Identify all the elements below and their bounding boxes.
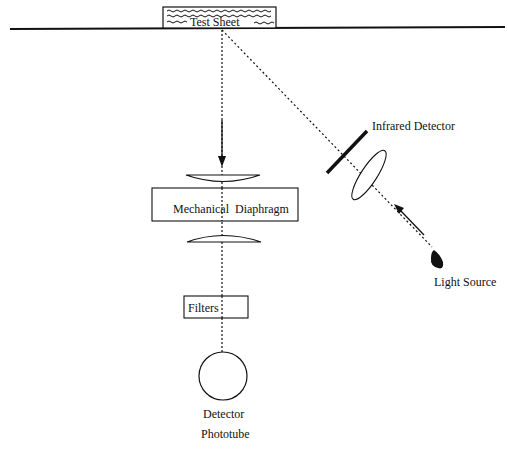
infrared-detector-bar (327, 131, 367, 173)
filters: Filters (184, 296, 248, 318)
mechanical-diaphragm-label: Mechanical Diaphragm (173, 202, 290, 216)
light-source-icon (431, 250, 443, 268)
down-arrow-icon (218, 120, 226, 167)
tilted-lens-icon (346, 146, 391, 203)
upper-lens-icon (186, 175, 260, 182)
mechanical-diaphragm: Mechanical Diaphragm (152, 188, 298, 221)
phototube-label: Phototube (201, 427, 250, 441)
detector-phototube-icon (199, 352, 247, 400)
infrared-detector-label: Infrared Detector (372, 119, 455, 133)
optical-diagram: Test Sheet Mechanical Diaphragm Filters … (0, 0, 508, 449)
light-arrow-icon (394, 204, 424, 235)
light-source-label: Light Source (434, 275, 496, 289)
lower-lens-icon (187, 236, 261, 243)
filters-label: Filters (188, 301, 219, 315)
detector-label: Detector (203, 407, 244, 421)
test-sheet-label: Test Sheet (190, 15, 240, 29)
test-sheet: Test Sheet (163, 7, 276, 29)
